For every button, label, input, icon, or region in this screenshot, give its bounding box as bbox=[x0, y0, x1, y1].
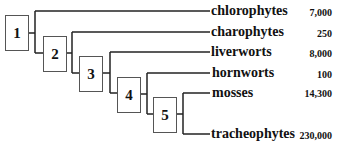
taxon-label-tracheophytes: tracheophytes bbox=[211, 127, 295, 141]
taxon-label-chlorophytes: chlorophytes bbox=[211, 4, 288, 18]
species-count-chlorophytes: 7,000 bbox=[310, 7, 333, 19]
taxon-label-hornworts: hornworts bbox=[212, 66, 274, 80]
species-count-mosses: 14,300 bbox=[305, 88, 333, 100]
species-count-tracheophytes: 230,000 bbox=[300, 130, 333, 142]
node-box-3: 3 bbox=[79, 56, 103, 92]
species-count-hornworts: 100 bbox=[317, 69, 332, 81]
taxon-label-liverworts: liverworts bbox=[211, 45, 272, 59]
node-box-5: 5 bbox=[153, 97, 177, 133]
node-box-1: 1 bbox=[5, 15, 29, 51]
taxon-label-mosses: mosses bbox=[212, 86, 253, 100]
taxon-label-charophytes: charophytes bbox=[211, 25, 284, 39]
species-count-liverworts: 8,000 bbox=[310, 48, 333, 60]
node-box-4: 4 bbox=[117, 77, 141, 113]
species-count-charophytes: 250 bbox=[317, 28, 332, 40]
node-box-2: 2 bbox=[43, 36, 67, 72]
